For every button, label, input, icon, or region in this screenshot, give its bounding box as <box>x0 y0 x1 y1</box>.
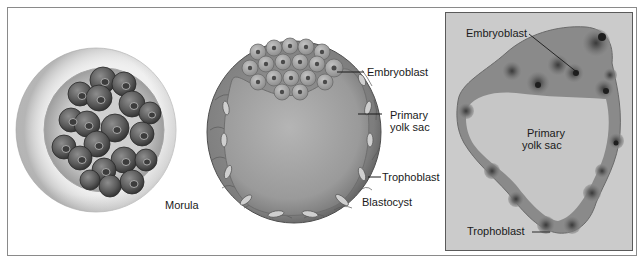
micrograph-embryoblast-label: Embryoblast <box>466 27 527 39</box>
blastocyst-trophoblast-label: Trophoblast <box>382 171 440 183</box>
blastocyst-illustration <box>207 38 382 223</box>
blastocyst-caption: Blastocyst <box>362 196 412 208</box>
micrograph-trophoblast-label: Trophoblast <box>467 225 525 237</box>
micrograph-yolk-sac-label-line1: Primary <box>527 127 565 139</box>
blastocyst-yolk-sac-label-line2: yolk sac <box>390 121 430 133</box>
morula-illustration <box>16 48 176 212</box>
blastocyst-yolk-sac-label-line1: Primary <box>390 109 428 121</box>
morula-caption: Morula <box>165 199 199 211</box>
micrograph-yolk-sac-label-line2: yolk sac <box>522 139 562 151</box>
blastocyst-embryoblast-label: Embryoblast <box>367 66 428 78</box>
